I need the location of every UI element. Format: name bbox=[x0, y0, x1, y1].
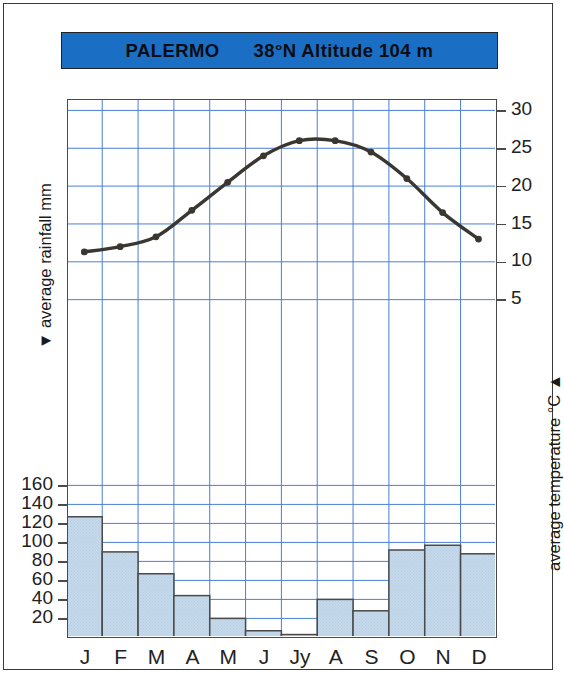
month-label: D bbox=[461, 642, 497, 672]
axis-tick-mark bbox=[58, 523, 67, 525]
axis-tick-label: 30 bbox=[511, 98, 532, 120]
axis-tick-mark bbox=[497, 224, 506, 226]
month-label: A bbox=[318, 642, 354, 672]
chart-card: PALERMO 38°N Altitude 104 m 160140120100… bbox=[3, 3, 553, 670]
station-name: PALERMO bbox=[126, 40, 220, 62]
axis-tick-mark bbox=[58, 504, 67, 506]
axis-tick-mark bbox=[497, 110, 506, 112]
axis-tick-mark bbox=[497, 299, 506, 301]
month-label: J bbox=[67, 642, 103, 672]
month-label: A bbox=[174, 642, 210, 672]
axis-tick-mark bbox=[58, 561, 67, 563]
climograph-canvas bbox=[68, 100, 495, 636]
axis-tick-mark bbox=[58, 580, 67, 582]
month-label: N bbox=[425, 642, 461, 672]
month-label: F bbox=[103, 642, 139, 672]
month-axis-labels: JFMAMJJyASOND bbox=[67, 642, 497, 672]
axis-tick-mark bbox=[497, 186, 506, 188]
month-label: M bbox=[139, 642, 175, 672]
temperature-axis-title: average temperature °C ▲ bbox=[545, 374, 564, 571]
month-label: O bbox=[389, 642, 425, 672]
station-coordinates: 38°N Altitude 104 m bbox=[254, 40, 434, 62]
month-label: S bbox=[354, 642, 390, 672]
axis-tick-label: 10 bbox=[511, 249, 532, 271]
axis-tick-mark bbox=[58, 599, 67, 601]
plot-area bbox=[67, 99, 497, 638]
axis-tick-label: 5 bbox=[511, 287, 522, 309]
axis-tick-mark bbox=[58, 485, 67, 487]
month-label: M bbox=[210, 642, 246, 672]
axis-tick-mark bbox=[58, 618, 67, 620]
axis-tick-mark bbox=[497, 148, 506, 150]
rainfall-axis-title: ▼ average rainfall mm bbox=[36, 183, 55, 349]
chart-title-bar: PALERMO 38°N Altitude 104 m bbox=[61, 32, 498, 69]
axis-tick-mark bbox=[58, 542, 67, 544]
axis-tick-mark bbox=[497, 262, 506, 264]
axis-tick-label: 25 bbox=[511, 136, 532, 158]
month-label: J bbox=[246, 642, 282, 672]
month-label: Jy bbox=[282, 642, 318, 672]
axis-tick-label: 20 bbox=[511, 174, 532, 196]
axis-tick-label: 20 bbox=[32, 606, 53, 628]
axis-tick-label: 15 bbox=[511, 212, 532, 234]
